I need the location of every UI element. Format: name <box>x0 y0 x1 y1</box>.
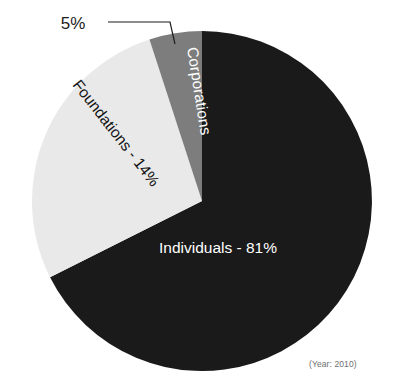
year-annotation: (Year: 2010) <box>309 359 357 369</box>
slice-label-individuals: Individuals - 81% <box>159 239 277 256</box>
pie-chart-container: 5% Corporations Foundations - 14% Indivi… <box>0 0 397 387</box>
callout-label-5-percent: 5% <box>61 14 86 33</box>
pie-chart-svg: 5% Corporations Foundations - 14% Indivi… <box>0 0 397 387</box>
